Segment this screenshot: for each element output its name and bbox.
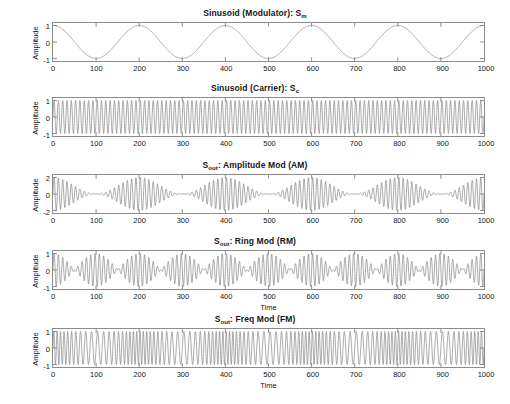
xtick-label-carrier-3: 300 [177, 139, 190, 148]
title-main-carrier: Sinusoid (Carrier): S [211, 83, 296, 93]
xtick-label-modulator-7: 700 [350, 64, 363, 73]
ytick-label-carrier-1: 0 [46, 114, 50, 123]
title-subscript-rm: out [220, 241, 230, 247]
xtick-label-fm-7: 700 [350, 370, 363, 379]
xtick-label-fm-6: 600 [307, 370, 320, 379]
title-subscript-fm: out [220, 319, 230, 325]
xtick-label-rm-6: 600 [307, 292, 320, 301]
xtick-label-am-8: 800 [393, 216, 406, 225]
xtick-label-modulator-9: 900 [436, 64, 449, 73]
xtick-label-fm-3: 300 [177, 370, 190, 379]
xtick-label-am-3: 300 [177, 216, 190, 225]
xtick-label-modulator-6: 600 [307, 64, 320, 73]
xtick-label-am-10: 1000 [478, 216, 495, 225]
xtick-label-fm-9: 900 [436, 370, 449, 379]
title-main-modulator: Sinusoid (Modulator): S [203, 8, 301, 18]
xtick-label-rm-4: 400 [220, 292, 233, 301]
xtick-label-am-4: 400 [220, 216, 233, 225]
waveform-rm [53, 254, 484, 287]
xtick-label-carrier-1: 100 [90, 139, 103, 148]
ytick-label-am-2: -2 [43, 208, 50, 217]
ytick-label-carrier-2: -1 [43, 131, 50, 140]
ytick-label-fm-2: -1 [43, 362, 50, 371]
subplot-fm: Sout: Freq Mod (FM)10-101002003004005006… [0, 314, 510, 392]
xtick-label-rm-9: 900 [436, 292, 449, 301]
xtick-label-modulator-2: 200 [133, 64, 146, 73]
xtick-label-fm-0: 0 [51, 370, 55, 379]
subplot-carrier: Sinusoid (Carrier): Sc10-101002003004005… [0, 83, 510, 161]
ytick-label-rm-1: 0 [46, 267, 50, 276]
x-axis-label-fm: Time [52, 381, 485, 390]
xtick-label-carrier-5: 500 [263, 139, 276, 148]
xtick-label-modulator-5: 500 [263, 64, 276, 73]
waveform-carrier [53, 101, 484, 134]
ytick-label-modulator-2: -1 [43, 56, 50, 65]
matlab-figure-subplots: Sinusoid (Modulator): Sm10-1010020030040… [0, 0, 510, 404]
xtick-label-am-1: 100 [90, 216, 103, 225]
xtick-label-am-0: 0 [51, 216, 55, 225]
xtick-label-carrier-6: 600 [307, 139, 320, 148]
ytick-label-rm-0: 1 [46, 249, 50, 258]
xtick-label-modulator-4: 400 [220, 64, 233, 73]
xtick-label-carrier-10: 1000 [478, 139, 495, 148]
xtick-label-rm-2: 200 [133, 292, 146, 301]
subplot-title-rm: Sout: Ring Mod (RM) [0, 236, 510, 247]
plot-area-modulator: 10-101002003004005006007008009001000Ampl… [52, 22, 485, 62]
xtick-label-carrier-4: 400 [220, 139, 233, 148]
xtick-label-rm-10: 1000 [478, 292, 495, 301]
ytick-label-carrier-0: 1 [46, 96, 50, 105]
xtick-label-fm-2: 200 [133, 370, 146, 379]
waveform-fm [53, 331, 484, 364]
xtick-label-modulator-3: 300 [177, 64, 190, 73]
xtick-label-rm-3: 300 [177, 292, 190, 301]
ytick-label-am-0: 2 [46, 173, 50, 182]
title-tail-am: : Amplitude Mod (AM) [218, 160, 308, 170]
subplot-rm: Sout: Ring Mod (RM)10-101002003004005006… [0, 236, 510, 314]
xtick-label-carrier-7: 700 [350, 139, 363, 148]
ytick-label-am-1: 0 [46, 191, 50, 200]
subplot-title-am: Sout: Amplitude Mod (AM) [0, 160, 510, 171]
title-tail-fm: : Freq Mod (FM) [230, 314, 295, 324]
subplot-title-carrier: Sinusoid (Carrier): Sc [0, 83, 510, 94]
xtick-label-rm-0: 0 [51, 292, 55, 301]
xtick-label-rm-1: 100 [90, 292, 103, 301]
title-main-rm: S [214, 236, 220, 246]
ytick-label-modulator-0: 1 [46, 21, 50, 30]
title-subscript-am: out [208, 165, 218, 171]
xtick-label-am-9: 900 [436, 216, 449, 225]
xtick-label-rm-8: 800 [393, 292, 406, 301]
xtick-label-am-5: 500 [263, 216, 276, 225]
xtick-label-am-2: 200 [133, 216, 146, 225]
xtick-label-modulator-8: 800 [393, 64, 406, 73]
xtick-label-am-7: 700 [350, 216, 363, 225]
xtick-label-fm-1: 100 [90, 370, 103, 379]
xtick-label-modulator-0: 0 [51, 64, 55, 73]
subplot-title-modulator: Sinusoid (Modulator): Sm [0, 8, 510, 19]
plot-area-rm: 10-101002003004005006007008009001000Ampl… [52, 250, 485, 290]
xtick-label-carrier-0: 0 [51, 139, 55, 148]
xtick-label-fm-10: 1000 [478, 370, 495, 379]
title-subscript-carrier: c [296, 88, 299, 94]
waveform-am [53, 178, 484, 211]
plot-area-carrier: 10-101002003004005006007008009001000Ampl… [52, 97, 485, 137]
xtick-label-rm-5: 500 [263, 292, 276, 301]
subplot-modulator: Sinusoid (Modulator): Sm10-1010020030040… [0, 8, 510, 86]
ytick-label-fm-1: 0 [46, 345, 50, 354]
waveform-modulator [53, 25, 484, 58]
xtick-label-fm-5: 500 [263, 370, 276, 379]
plot-area-fm: 10-101002003004005006007008009001000Ampl… [52, 328, 485, 368]
x-axis-label-rm: Time [52, 303, 485, 312]
title-subscript-modulator: m [301, 13, 306, 19]
ytick-label-fm-0: 1 [46, 327, 50, 336]
xtick-label-carrier-8: 800 [393, 139, 406, 148]
xtick-label-carrier-2: 200 [133, 139, 146, 148]
xtick-label-am-6: 600 [307, 216, 320, 225]
ytick-label-modulator-1: 0 [46, 39, 50, 48]
xtick-label-fm-4: 400 [220, 370, 233, 379]
xtick-label-rm-7: 700 [350, 292, 363, 301]
subplot-am: Sout: Amplitude Mod (AM)20-2010020030040… [0, 160, 510, 238]
subplot-title-fm: Sout: Freq Mod (FM) [0, 314, 510, 325]
plot-area-am: 20-201002003004005006007008009001000Ampl… [52, 174, 485, 214]
ytick-label-rm-2: -1 [43, 284, 50, 293]
xtick-label-modulator-10: 1000 [478, 64, 495, 73]
